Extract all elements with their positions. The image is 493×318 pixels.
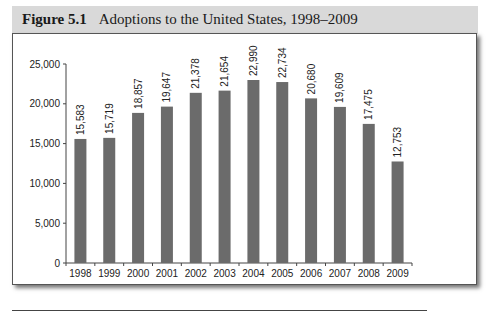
bar [132,113,144,263]
y-tick-label: 25,000 [29,59,60,70]
x-tick-label: 2008 [358,268,381,279]
x-tick-label: 2004 [242,268,265,279]
bar [190,93,202,263]
bar-value-label: 19,609 [334,72,345,103]
x-tick-label: 2006 [300,268,323,279]
bar-value-label: 15,583 [75,104,86,135]
y-tick-label: 10,000 [29,178,60,189]
bar [247,80,259,263]
x-tick-label: 2001 [156,268,179,279]
x-tick-label: 2007 [329,268,352,279]
y-tick-label: 0 [54,258,60,269]
bar-value-label: 15,719 [104,103,115,134]
y-tick-label: 15,000 [29,138,60,149]
bar-value-label: 22,734 [277,47,288,78]
bar-value-label: 20,680 [306,63,317,94]
bar [334,107,346,263]
x-tick-label: 1998 [69,268,92,279]
bar [363,124,375,263]
x-tick-label: 2000 [127,268,150,279]
bar-value-label: 12,753 [392,126,403,157]
bottom-rule [12,310,427,311]
x-tick-label: 2003 [213,268,236,279]
x-tick-label: 2009 [386,268,409,279]
y-tick-label: 20,000 [29,98,60,109]
x-tick-label: 2002 [185,268,208,279]
bar-value-label: 18,857 [133,78,144,109]
bar-value-label: 22,990 [248,45,259,76]
bar-value-label: 21,378 [190,58,201,89]
bar [305,98,317,263]
bar [161,107,173,263]
x-tick-label: 1999 [98,268,121,279]
y-axis: 05,00010,00015,00020,00025,000 [29,59,66,269]
bar-value-label: 21,654 [219,56,230,87]
bar-chart: 05,00010,00015,00020,00025,000 199819992… [0,0,493,318]
bars: 15,58315,71918,85719,64721,37821,65422,9… [74,45,403,263]
bar-value-label: 19,647 [161,72,172,103]
bar [219,91,231,263]
bar-value-label: 17,475 [363,89,374,120]
x-tick-label: 2005 [271,268,294,279]
bar [276,82,288,263]
bar [74,139,86,263]
bar [392,161,404,263]
bar [103,138,115,263]
y-tick-label: 5,000 [35,218,60,229]
x-axis: 1998199920002001200220032004200520062007… [66,263,412,279]
